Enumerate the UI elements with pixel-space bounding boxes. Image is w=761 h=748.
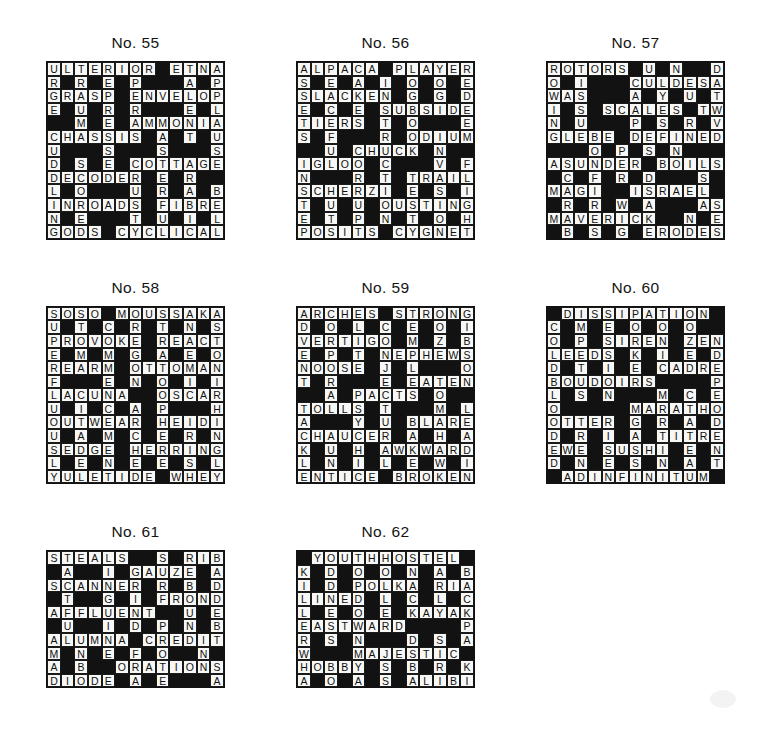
- grid-letter-cell: C: [324, 307, 338, 321]
- grid-block-cell: [615, 415, 629, 429]
- grid-letter-cell: S: [574, 103, 588, 117]
- grid-block-cell: [115, 361, 129, 375]
- grid-letter-cell: B: [210, 619, 224, 633]
- grid-block-cell: [669, 89, 683, 103]
- grid-block-cell: [629, 198, 643, 212]
- grid-block-cell: [710, 184, 724, 198]
- grid-letter-cell: R: [683, 116, 697, 130]
- grid-letter-cell: H: [433, 429, 447, 443]
- crossword-grid-57[interactable]: ROTORSUNDOICULDESAWASAYUTISSCALESTWNUPSR…: [546, 61, 725, 240]
- grid-block-cell: [447, 89, 461, 103]
- puzzle-55: No. 55 ULTERIORETNARREPAPGRASPENVELOPEUR…: [38, 34, 233, 240]
- grid-letter-cell: E: [61, 171, 75, 185]
- grid-letter-cell: O: [683, 320, 697, 334]
- grid-letter-cell: D: [547, 429, 561, 443]
- grid-letter-cell: V: [574, 212, 588, 226]
- grid-letter-cell: E: [460, 116, 474, 130]
- grid-letter-cell: O: [142, 157, 156, 171]
- grid-block-cell: [115, 116, 129, 130]
- grid-letter-cell: L: [311, 62, 325, 76]
- grid-block-cell: [338, 456, 352, 470]
- grid-letter-cell: C: [129, 429, 143, 443]
- grid-letter-cell: Y: [433, 62, 447, 76]
- grid-letter-cell: D: [47, 674, 61, 688]
- grid-letter-cell: G: [129, 565, 143, 579]
- grid-letter-cell: D: [710, 415, 724, 429]
- grid-letter-cell: I: [379, 184, 393, 198]
- grid-letter-cell: O: [102, 334, 116, 348]
- grid-letter-cell: D: [710, 348, 724, 362]
- crossword-grid-61[interactable]: STEALSSRIBAIGAUZEASCANNERRBDTGIFRONDAFFL…: [46, 550, 225, 688]
- grid-letter-cell: S: [642, 375, 656, 389]
- grid-letter-cell: B: [338, 660, 352, 674]
- grid-letter-cell: U: [47, 402, 61, 416]
- grid-block-cell: [115, 565, 129, 579]
- grid-letter-cell: C: [324, 103, 338, 117]
- grid-block-cell: [642, 157, 656, 171]
- grid-letter-cell: I: [197, 551, 211, 565]
- grid-block-cell: [352, 375, 366, 389]
- grid-letter-cell: N: [197, 62, 211, 76]
- grid-block-cell: [392, 633, 406, 647]
- grid-letter-cell: P: [156, 619, 170, 633]
- grid-letter-cell: T: [338, 334, 352, 348]
- puzzle-61: No. 61 STEALSSRIBAIGAUZEASCANNERRBDTGIFR…: [38, 523, 233, 688]
- grid-block-cell: [61, 157, 75, 171]
- grid-block-cell: [419, 212, 433, 226]
- grid-letter-cell: T: [297, 402, 311, 416]
- grid-block-cell: [74, 619, 88, 633]
- grid-letter-cell: N: [547, 116, 561, 130]
- grid-block-cell: [588, 402, 602, 416]
- grid-block-cell: [365, 76, 379, 90]
- grid-letter-cell: K: [392, 579, 406, 593]
- grid-block-cell: [311, 647, 325, 661]
- grid-letter-cell: E: [710, 429, 724, 443]
- crossword-grid-62[interactable]: YOUTHHOSTELKDOONABIDPOLKARIALINEDLCLCLEO…: [296, 550, 475, 688]
- grid-letter-cell: I: [129, 592, 143, 606]
- grid-block-cell: [142, 592, 156, 606]
- grid-letter-cell: R: [352, 171, 366, 185]
- grid-letter-cell: S: [697, 171, 711, 185]
- grid-letter-cell: S: [324, 619, 338, 633]
- crossword-grid-60[interactable]: DISSIPATIONCMEOOOOPSIRENZENLEEDSKIEDDTIE…: [546, 306, 725, 485]
- grid-letter-cell: A: [642, 402, 656, 416]
- grid-letter-cell: P: [156, 402, 170, 416]
- grid-letter-cell: M: [183, 361, 197, 375]
- grid-letter-cell: I: [169, 660, 183, 674]
- crossword-grid-56[interactable]: ALPACAPLAYERSEAIOOESLACKENGGDECESUBSIDET…: [296, 61, 475, 240]
- grid-block-cell: [115, 647, 129, 661]
- grid-block-cell: [697, 415, 711, 429]
- grid-letter-cell: O: [324, 320, 338, 334]
- grid-letter-cell: I: [169, 198, 183, 212]
- grid-letter-cell: S: [379, 674, 393, 688]
- grid-block-cell: [115, 144, 129, 158]
- grid-block-cell: [447, 334, 461, 348]
- grid-block-cell: [642, 415, 656, 429]
- grid-block-cell: [197, 320, 211, 334]
- grid-letter-cell: H: [210, 402, 224, 416]
- grid-letter-cell: N: [197, 592, 211, 606]
- grid-letter-cell: F: [156, 592, 170, 606]
- grid-letter-cell: I: [379, 76, 393, 90]
- grid-letter-cell: W: [547, 89, 561, 103]
- grid-letter-cell: U: [61, 619, 75, 633]
- puzzle-59: No. 59 ARCHESSTRONGDOLCEOIVERTIGOMZBEPTN…: [288, 279, 483, 485]
- grid-block-cell: [311, 456, 325, 470]
- grid-block-cell: [61, 103, 75, 117]
- crossword-grid-58[interactable]: SOSOMOUSSAKAUTCRTNSPROVOKEREACTEMMGAEORE…: [46, 306, 225, 485]
- grid-letter-cell: E: [379, 606, 393, 620]
- grid-letter-cell: S: [47, 307, 61, 321]
- grid-letter-cell: E: [433, 551, 447, 565]
- grid-letter-cell: L: [74, 470, 88, 484]
- crossword-grid-55[interactable]: ULTERIORETNARREPAPGRASPENVELOPEURRELMEAM…: [46, 61, 225, 240]
- grid-letter-cell: R: [297, 633, 311, 647]
- grid-letter-cell: O: [183, 660, 197, 674]
- grid-block-cell: [615, 402, 629, 416]
- grid-block-cell: [588, 334, 602, 348]
- grid-letter-cell: C: [352, 144, 366, 158]
- grid-block-cell: [115, 89, 129, 103]
- grid-letter-cell: P: [629, 116, 643, 130]
- grid-letter-cell: T: [169, 157, 183, 171]
- crossword-grid-59[interactable]: ARCHESSTRONGDOLCEOIVERTIGOMZBEPTNEPHEWSN…: [296, 306, 475, 485]
- grid-letter-cell: A: [419, 375, 433, 389]
